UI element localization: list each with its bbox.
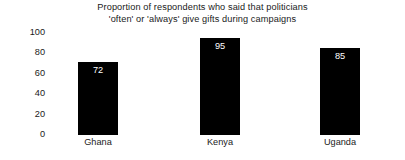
y-tick-label-100: 100 <box>0 28 45 37</box>
y-tick-label-40: 40 <box>0 90 45 99</box>
bar-ghana[interactable]: 72 <box>78 62 118 135</box>
x-tick-label-uganda: Uganda <box>298 137 382 147</box>
chart-title: Proportion of respondents who said that … <box>0 1 405 25</box>
bar-kenya[interactable]: 95 <box>200 38 240 135</box>
bar-group-uganda: 85 Uganda <box>320 33 360 135</box>
bar-value-label-uganda: 85 <box>320 52 360 62</box>
y-tick-label-20: 20 <box>0 110 45 119</box>
y-tick-label-60: 60 <box>0 69 45 78</box>
chart-title-line-1: Proportion of respondents who said that … <box>0 1 405 13</box>
bar-value-label-ghana: 72 <box>78 66 118 76</box>
x-tick-label-kenya: Kenya <box>178 137 262 147</box>
y-tick-label-0: 0 <box>0 130 45 139</box>
bar-group-kenya: 95 Kenya <box>200 33 240 135</box>
y-tick-label-80: 80 <box>0 49 45 58</box>
bar-value-label-kenya: 95 <box>200 42 240 52</box>
x-tick-label-ghana: Ghana <box>56 137 140 147</box>
bar-uganda[interactable]: 85 <box>320 48 360 135</box>
bar-group-ghana: 72 Ghana <box>78 33 118 135</box>
chart-title-line-2: 'often' or 'always' give gifts during ca… <box>0 13 405 25</box>
y-axis: 100 80 60 40 20 0 <box>0 33 45 135</box>
plot-area: 72 Ghana 95 Kenya 85 Uganda <box>48 33 398 135</box>
bar-chart-figure: Proportion of respondents who said that … <box>0 0 405 160</box>
